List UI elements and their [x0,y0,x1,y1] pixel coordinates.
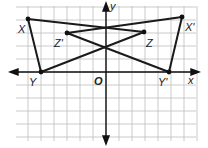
label-z-prime: Z' [54,38,63,49]
coordinate-plane [0,0,208,148]
label-z: Z [146,38,153,49]
label-x: X [18,24,25,35]
label-y-prime: Y' [158,77,167,88]
point-z-prime [65,31,70,36]
label-y: Y [29,77,36,88]
label-x-prime: X' [185,22,194,33]
label-origin: O [94,76,103,87]
y-axis-arrow-down-icon [103,136,109,144]
triangle-xyz [28,19,144,72]
point-y-prime [167,70,172,75]
x-axis-arrow-left-icon [10,69,18,75]
point-x-prime [180,15,185,20]
label-y-axis: y [110,1,116,12]
label-x-axis: x [188,75,194,86]
y-axis-arrow-up-icon [103,3,109,11]
vertices [26,15,185,75]
point-y [39,70,44,75]
point-x [26,17,31,22]
triangles [28,17,182,72]
point-z [142,30,147,35]
